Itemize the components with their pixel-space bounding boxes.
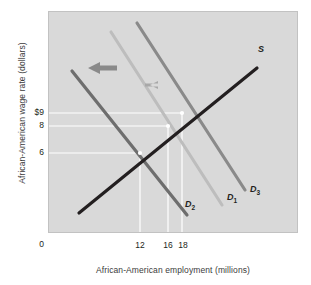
curve-label-d2: D2: [185, 199, 195, 211]
leftward-shift-arrow: [88, 62, 117, 74]
curve-label-d2-sub: 2: [192, 204, 196, 211]
equilibrium-point-18-9: [180, 111, 184, 115]
x-axis-title: African-American employment (millions): [48, 265, 298, 275]
curve-label-d3: D3: [250, 184, 260, 196]
curve-label-d1-sub: 1: [234, 197, 238, 204]
chart-canvas: [0, 0, 311, 285]
curve-label-s: S: [258, 44, 264, 54]
demand-curve-d2: [72, 71, 187, 215]
x-tick-label-18: 18: [172, 240, 194, 250]
demand-curve-d3: [137, 23, 245, 190]
equilibrium-point-16-8: [166, 124, 170, 128]
y-tick-label-6: 6: [22, 147, 44, 157]
curve-label-s-text: S: [258, 44, 264, 54]
guide-lines: [49, 113, 182, 232]
y-tick-label-9: $9: [22, 107, 44, 117]
curve-label-d3-sub: 3: [257, 189, 261, 196]
equilibrium-point-12-6: [138, 151, 142, 155]
curve-label-d1: D1: [227, 192, 237, 204]
y-tick-label-8: 8: [22, 120, 44, 130]
supply-demand-chart: African-American wage rate (dollars) Afr…: [0, 0, 311, 285]
y-tick-label-0: 0: [22, 239, 44, 249]
demand-curve-d1: [111, 32, 222, 205]
x-tick-label-12: 12: [129, 240, 151, 250]
